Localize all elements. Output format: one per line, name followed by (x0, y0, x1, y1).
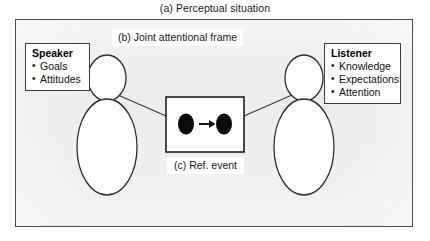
caption-ref-event: (c) Ref. event (167, 157, 244, 174)
listener-head (285, 55, 323, 101)
listener-attribute-attention: Attention (331, 86, 395, 99)
listener-title: Listener (331, 47, 395, 60)
listener-attribute-expectations: Expectations (331, 73, 395, 86)
listener-attribute-box: Listener Knowledge Expectations Attentio… (324, 43, 401, 104)
speaker-body (77, 99, 137, 195)
speaker-attribute-goals: Goals (32, 60, 84, 73)
speaker-attribute-box: Speaker Goals Attitudes (25, 43, 90, 91)
listener-body (274, 99, 334, 195)
speaker-title: Speaker (32, 47, 84, 60)
listener-attribute-knowledge: Knowledge (331, 60, 395, 73)
ref-event-entity-left (178, 114, 194, 135)
figure-perceptual-situation: (a) Perceptual situation (b) Joint atten… (0, 0, 430, 241)
speaker-head (88, 55, 126, 101)
caption-joint-attentional-frame: (b) Joint attentional frame (112, 29, 243, 46)
speaker-attribute-attitudes: Attitudes (32, 73, 84, 86)
ref-event-entity-right (216, 114, 232, 135)
